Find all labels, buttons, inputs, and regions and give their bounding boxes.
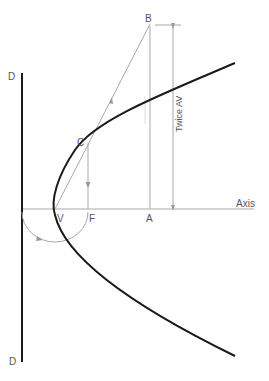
parabola-diagram: D D B C V F A Axis Twice AV <box>0 0 269 381</box>
label-vertex: V <box>57 213 64 224</box>
label-point-a: A <box>146 213 153 224</box>
label-directrix-top: D <box>8 71 15 82</box>
label-directrix-bottom: D <box>9 356 16 367</box>
label-point-b: B <box>145 13 152 24</box>
arc-arrow <box>36 236 43 241</box>
label-focus: F <box>89 213 95 224</box>
line-v-c-b <box>55 24 150 209</box>
arrow-c-f <box>86 182 91 188</box>
label-twice-av: Twice AV <box>174 96 184 132</box>
label-point-c: C <box>77 137 84 148</box>
label-axis: Axis <box>236 198 255 209</box>
